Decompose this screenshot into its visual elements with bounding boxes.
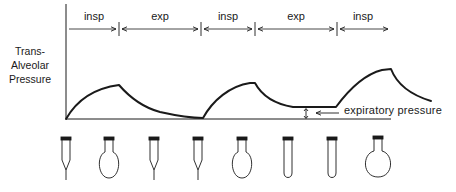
alveoli-row (61, 136, 391, 180)
alveolus-collapsed-3 (193, 137, 203, 180)
alveolus-inflated-large (365, 136, 390, 177)
alveolus-partial-2 (327, 137, 337, 178)
alveolus-inflated-2 (232, 137, 251, 178)
alveolus-collapsed-1 (61, 137, 71, 180)
pressure-curve (66, 69, 431, 119)
expiratory-pressure-indicator (304, 109, 339, 119)
alveolus-partial-1 (283, 137, 293, 178)
axes (66, 4, 391, 119)
alveolus-collapsed-2 (149, 137, 159, 180)
alveolus-inflated-1 (99, 137, 118, 178)
pressure-diagram (0, 0, 456, 192)
